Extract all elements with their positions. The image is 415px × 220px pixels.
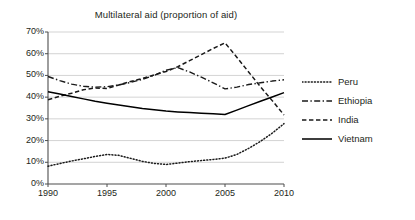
legend-item-label: Peru	[332, 76, 358, 87]
legend-line-swatch	[302, 77, 332, 87]
x-axis-tick-label: 1995	[84, 188, 130, 198]
series-line-peru	[48, 124, 284, 167]
chart-legend: PeruEthiopiaIndiaVietnam	[302, 72, 412, 148]
legend-item-label: Ethiopia	[332, 95, 372, 106]
legend-line-swatch	[302, 134, 332, 144]
legend-item-ethiopia[interactable]: Ethiopia	[302, 91, 412, 110]
legend-item-label: Vietnam	[332, 133, 373, 144]
legend-item-vietnam[interactable]: Vietnam	[302, 129, 412, 148]
x-axis-tick-label: 1990	[25, 188, 71, 198]
series-line-vietnam	[48, 92, 284, 115]
legend-line-swatch	[302, 96, 332, 106]
legend-item-label: India	[332, 114, 359, 125]
legend-item-india[interactable]: India	[302, 110, 412, 129]
x-axis-tick-label: 2010	[261, 188, 307, 198]
x-axis-tick-label: 2000	[143, 188, 189, 198]
chart-container: Multilateral aid (proportion of aid) 0%1…	[0, 0, 415, 220]
legend-line-swatch	[302, 115, 332, 125]
legend-item-peru[interactable]: Peru	[302, 72, 412, 91]
x-axis-tick-label: 2005	[202, 188, 248, 198]
